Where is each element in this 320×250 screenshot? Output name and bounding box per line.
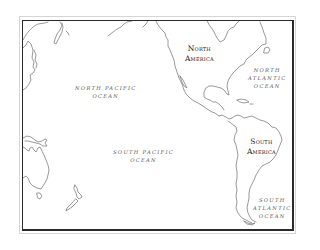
label-line: SOUTH — [253, 196, 292, 204]
label-line: America — [185, 54, 214, 64]
tasmania — [37, 193, 42, 199]
label-line: South — [247, 137, 276, 147]
label-line: OCEAN — [248, 82, 287, 90]
newfoundland — [264, 47, 270, 53]
kuril-islands — [66, 31, 69, 35]
new-guinea — [23, 136, 47, 146]
cuba — [237, 99, 249, 103]
label-south-pacific-ocean: SOUTH PACIFIC OCEAN — [113, 148, 174, 164]
label-north-america: North America — [185, 44, 214, 64]
label-line: North — [185, 44, 214, 54]
label-line: OCEAN — [253, 212, 292, 220]
label-line: ATLANTIC — [253, 204, 292, 212]
label-line: OCEAN — [75, 92, 137, 100]
new-zealand-north — [74, 185, 82, 199]
north-canada-coast — [207, 21, 239, 42]
label-line: NORTH — [248, 66, 287, 74]
label-line: ATLANTIC — [248, 74, 287, 82]
label-north-atlantic-ocean: NORTH ATLANTIC OCEAN — [248, 66, 287, 90]
korea-coast — [34, 50, 37, 68]
label-north-pacific-ocean: NORTH PACIFIC OCEAN — [75, 84, 137, 100]
east-canada-coast — [255, 22, 266, 52]
north-america-coast — [156, 21, 219, 116]
label-south-atlantic-ocean: SOUTH ATLANTIC OCEAN — [253, 196, 292, 220]
alaska-coast — [108, 21, 132, 36]
label-south-america: South America — [247, 137, 276, 157]
japan-islands — [54, 22, 63, 44]
label-line: OCEAN — [113, 156, 174, 164]
label-line: America — [247, 147, 276, 157]
alaska-coast-2 — [143, 21, 148, 27]
label-line: NORTH PACIFIC — [75, 84, 137, 92]
australia — [23, 147, 49, 189]
label-line: SOUTH PACIFIC — [113, 148, 174, 156]
new-zealand-south — [66, 199, 78, 211]
